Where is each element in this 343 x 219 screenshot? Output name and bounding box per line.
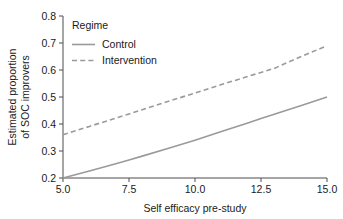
y-tick-label: 0.3 xyxy=(41,145,56,157)
y-axis-title-line1: Estimated proportion xyxy=(6,48,18,145)
x-axis-ticks xyxy=(63,178,327,182)
y-axis-ticks xyxy=(59,16,63,178)
x-tick-label: 10.0 xyxy=(185,183,206,195)
line-chart: 0.20.30.40.50.60.70.8 5.07.510.012.515.0… xyxy=(0,0,343,219)
y-tick-label: 0.5 xyxy=(41,91,56,103)
x-axis-tick-labels: 5.07.510.012.515.0 xyxy=(56,183,338,195)
y-tick-label: 0.6 xyxy=(41,64,56,76)
y-tick-label: 0.8 xyxy=(41,10,56,22)
y-tick-label: 0.7 xyxy=(41,37,56,49)
x-tick-label: 12.5 xyxy=(251,183,272,195)
x-axis-title: Self efficacy pre-study xyxy=(143,202,247,214)
legend-label-control: Control xyxy=(102,38,136,50)
y-tick-label: 0.2 xyxy=(41,172,56,184)
y-axis-title-line2: of SOC improvers xyxy=(19,55,31,138)
y-axis-tick-labels: 0.20.30.40.50.60.70.8 xyxy=(41,10,56,184)
x-tick-label: 7.5 xyxy=(122,183,137,195)
legend-title: Regime xyxy=(72,19,108,31)
x-tick-label: 5.0 xyxy=(56,183,71,195)
y-tick-label: 0.4 xyxy=(41,118,56,130)
x-tick-label: 15.0 xyxy=(317,183,338,195)
legend-label-intervention: Intervention xyxy=(102,54,157,66)
chart-figure: 0.20.30.40.50.60.70.8 5.07.510.012.515.0… xyxy=(0,0,343,219)
